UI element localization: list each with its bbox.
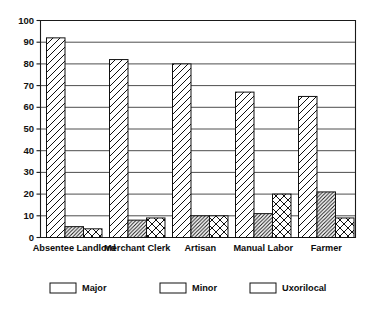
- bar-chart: 0102030405060708090100 Absentee Landlord…: [0, 0, 374, 309]
- chart-canvas: 0102030405060708090100 Absentee Landlord…: [0, 0, 374, 309]
- x-axis-label-3: Manual Labor: [233, 243, 293, 253]
- bar-major-0: [47, 38, 66, 238]
- y-tick-label-90: 90: [23, 36, 34, 47]
- bar-minor-4: [317, 192, 336, 238]
- bar-uxorilocal-3: [273, 194, 292, 237]
- y-tick-label-0: 0: [29, 232, 34, 243]
- bar-major-1: [110, 60, 129, 238]
- y-tick-label-100: 100: [18, 15, 34, 26]
- y-tick-label-20: 20: [23, 188, 34, 199]
- y-tick-label-60: 60: [23, 101, 34, 112]
- y-tick-label-70: 70: [23, 80, 34, 91]
- legend-label-minor: Minor: [192, 283, 217, 293]
- x-axis-label-4: Farmer: [311, 243, 343, 253]
- y-tick-label-40: 40: [23, 145, 34, 156]
- legend-swatch-major: [50, 283, 76, 293]
- legend-swatch-minor: [160, 283, 186, 293]
- y-tick-label-30: 30: [23, 166, 34, 177]
- bar-uxorilocal-1: [147, 218, 166, 238]
- legend-label-major: Major: [82, 283, 107, 293]
- x-axis-label-1: Merchant Clerk: [104, 243, 171, 253]
- legend-swatch-uxorilocal: [250, 283, 276, 293]
- bar-major-2: [173, 64, 192, 238]
- y-tick-label-80: 80: [23, 58, 34, 69]
- bar-minor-2: [191, 216, 210, 238]
- bar-uxorilocal-4: [336, 218, 355, 238]
- bar-uxorilocal-2: [210, 216, 229, 238]
- bar-major-4: [299, 96, 318, 237]
- y-tick-label-50: 50: [23, 123, 34, 134]
- bar-uxorilocal-0: [84, 229, 103, 238]
- bar-minor-1: [128, 220, 147, 237]
- y-tick-label-10: 10: [23, 210, 34, 221]
- bar-major-3: [236, 92, 255, 237]
- bar-minor-3: [254, 214, 273, 238]
- x-axis-label-2: Artisan: [184, 243, 216, 253]
- legend-label-uxorilocal: Uxorilocal: [282, 283, 326, 293]
- bar-minor-0: [65, 227, 84, 238]
